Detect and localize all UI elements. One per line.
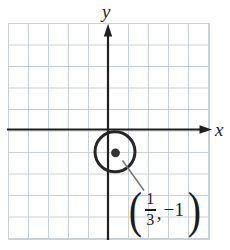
y-axis-label: y — [100, 1, 111, 22]
point-label: ( 1 3 , −1 ) — [127, 186, 202, 234]
center-point-dot — [111, 148, 120, 157]
x-axis-label: x — [214, 119, 224, 140]
x-axis-arrowhead — [200, 125, 213, 133]
figure-canvas: y x ( 1 3 , −1 ) — [0, 0, 230, 250]
y-coordinate-value: −1 — [163, 199, 184, 221]
close-paren-glyph: ) — [187, 188, 200, 232]
fraction: 1 3 — [145, 191, 156, 228]
fraction-denominator: 3 — [146, 212, 154, 229]
open-paren-glyph: ( — [129, 188, 142, 232]
fraction-numerator: 1 — [146, 191, 154, 208]
y-axis-arrowhead — [104, 24, 112, 37]
comma-glyph: , — [157, 202, 162, 224]
